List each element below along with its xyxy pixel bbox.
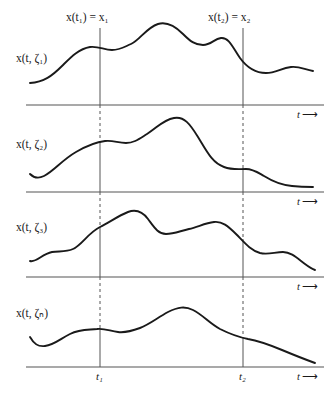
- t-axis-label-4-text: t: [297, 371, 300, 382]
- process-label-2-text: x(t, ζ₂): [16, 138, 47, 150]
- process-label-3-text: x(t, ζ₃): [16, 221, 47, 233]
- tick-label-t1-text: t₁: [96, 370, 103, 382]
- t-axis-label-2: t⟶: [297, 197, 318, 208]
- x1-marker-label: x(t₁) = x₁: [66, 12, 109, 24]
- t-axis-label-3: t⟶: [297, 282, 318, 293]
- panel-axis-lines: [26, 105, 324, 367]
- waveform-realization-3: [30, 211, 315, 270]
- t-axis-label-4: t⟶: [297, 372, 318, 383]
- waveform-realization-4: [30, 308, 315, 363]
- x2-marker-label-text: x(t₂) = x₂: [208, 11, 251, 23]
- tick-label-t1: t₁: [96, 371, 103, 382]
- waveform-realization-1: [30, 23, 313, 83]
- t-axis-arrow-2-icon: ⟶: [302, 196, 318, 207]
- t-axis-label-1: t⟶: [297, 110, 318, 121]
- t-axis-arrow-4-icon: ⟶: [302, 371, 318, 382]
- process-label-3: x(t, ζ₃): [16, 222, 47, 234]
- t-axis-label-3-text: t: [297, 281, 300, 292]
- waveform-group: [30, 23, 315, 363]
- x1-marker-label-text: x(t₁) = x₁: [66, 11, 109, 23]
- t-axis-arrow-1-icon: ⟶: [302, 109, 318, 120]
- t-axis-label-1-text: t: [297, 109, 300, 120]
- process-label-4-text: x(t, ζₙ): [16, 307, 48, 319]
- tick-label-t2-text: t₂: [239, 370, 246, 382]
- t-axis-label-2-text: t: [297, 196, 300, 207]
- t-axis-arrow-3-icon: ⟶: [302, 281, 318, 292]
- waveform-realization-2: [30, 118, 313, 187]
- stochastic-process-ensemble-figure: x(t₁) = x₁ x(t₂) = x₂ x(t, ζ₁) x(t, ζ₂) …: [0, 0, 336, 399]
- tick-label-t2: t₂: [239, 371, 246, 382]
- process-label-4: x(t, ζₙ): [16, 308, 48, 320]
- process-label-1-text: x(t, ζ₁): [16, 52, 47, 64]
- process-label-2: x(t, ζ₂): [16, 139, 47, 151]
- x2-marker-label: x(t₂) = x₂: [208, 12, 251, 24]
- figure-canvas: [0, 0, 336, 399]
- process-label-1: x(t, ζ₁): [16, 53, 47, 65]
